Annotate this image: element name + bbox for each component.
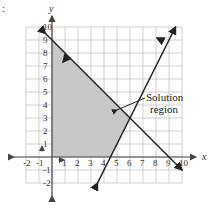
- y-axis-label: y: [48, 3, 54, 14]
- x-tick-label: 5: [114, 158, 119, 168]
- y-tick-label: 6: [43, 74, 48, 84]
- x-tick-label: 7: [140, 158, 145, 168]
- annotation-line2: region: [150, 103, 179, 115]
- shade-direction-arrow-icon: [157, 38, 163, 41]
- x-axis-label: x: [201, 151, 207, 162]
- y-tick-label: 2: [43, 126, 48, 136]
- annotation-pointer: [117, 98, 145, 110]
- y-tick-label: 7: [43, 61, 48, 71]
- x-tick-label: 6: [127, 158, 132, 168]
- y-tick-label: 1: [43, 139, 48, 149]
- y-tick-label: 8: [43, 48, 48, 58]
- annotation-line1: Solution: [146, 91, 184, 103]
- x-tick-label: 10: [179, 158, 189, 168]
- x-tick-label: 3: [88, 158, 93, 168]
- x-tick-label: 2: [75, 158, 80, 168]
- y-tick-label: 9: [43, 35, 48, 45]
- y-tick-label: 3: [43, 113, 48, 123]
- inequality-graph: -2-112345678910-2-112345678910 y x Solut…: [0, 0, 208, 208]
- y-tick-label: 4: [43, 100, 48, 110]
- y-tick-label: 5: [43, 87, 48, 97]
- y-tick-label: 10: [43, 22, 53, 32]
- x-tick-label: -2: [23, 158, 31, 168]
- x-tick-label: 8: [153, 158, 158, 168]
- y-tick-label: -1: [43, 165, 51, 175]
- x-tick-label: 9: [166, 158, 171, 168]
- y-tick-label: -2: [43, 178, 51, 188]
